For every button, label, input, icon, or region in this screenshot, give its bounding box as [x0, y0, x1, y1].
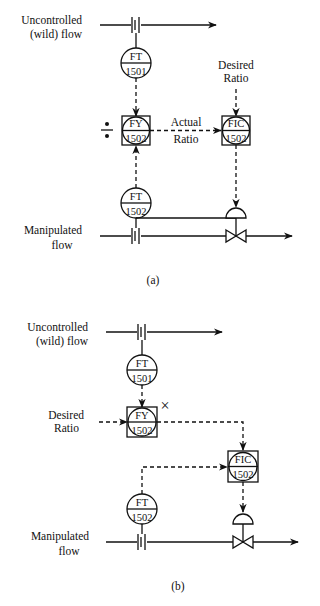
ft-1501-instrument: FT 1501	[127, 355, 157, 385]
manipulated-flow-label-line1: Manipulated	[31, 530, 89, 543]
instrument-function: FY	[129, 118, 143, 129]
figure-b: Uncontrolled (wild) flow FT 1501 × Desir…	[27, 321, 298, 593]
instrument-number: 1501	[132, 373, 153, 384]
instrument-function: FT	[136, 358, 149, 369]
caption-a: (a)	[147, 274, 160, 287]
wild-flow-label-line1: Uncontrolled	[27, 321, 88, 333]
instrument-number: 1502	[126, 206, 147, 217]
orifice-plate-icon	[137, 534, 147, 550]
remote-setpoint-signal	[157, 422, 243, 450]
fic-1502-instrument: FIC 1502	[222, 116, 250, 145]
fy-1502-instrument: FY 1502	[127, 407, 157, 437]
manipulated-flow-label-line2: flow	[58, 545, 80, 557]
instrument-number: 1502	[226, 133, 247, 144]
orifice-plate-icon	[131, 17, 141, 33]
ft-1502-instrument: FT 1502	[127, 494, 157, 524]
instrument-number: 1502	[233, 469, 254, 480]
desired-ratio-label-line1: Desired	[48, 409, 84, 421]
fic-1502-instrument: FIC 1502	[228, 451, 258, 482]
instrument-number: 1501	[126, 66, 147, 77]
ft-1501-instrument: FT 1501	[121, 48, 151, 78]
instrument-function: FT	[136, 497, 149, 508]
caption-b: (b)	[171, 580, 185, 593]
actual-ratio-label-line1: Actual	[171, 116, 202, 128]
instrument-function: FT	[130, 191, 143, 202]
wild-flow-label-line2: (wild) flow	[30, 28, 83, 41]
measurement-signal	[142, 467, 227, 494]
instrument-function: FT	[130, 51, 143, 62]
wild-flow-label-line1: Uncontrolled	[21, 14, 82, 26]
actual-ratio-label-line2: Ratio	[174, 133, 199, 145]
instrument-number: 1502	[132, 425, 153, 436]
divide-icon	[101, 122, 113, 138]
fy-1502-instrument: FY 1502	[122, 116, 150, 145]
ft-1502-instrument: FT 1502	[121, 188, 151, 218]
instrument-function: FIC	[235, 454, 251, 465]
multiply-icon: ×	[160, 397, 169, 414]
desired-ratio-label-line1: Desired	[218, 59, 254, 71]
manipulated-flow-label-line2: flow	[51, 239, 73, 251]
control-valve-icon	[233, 514, 253, 548]
control-valve-icon	[226, 208, 246, 242]
manipulated-flow-label-line1: Manipulated	[24, 224, 82, 237]
instrument-number: 1502	[126, 133, 147, 144]
desired-ratio-label-line2: Ratio	[224, 72, 249, 84]
wild-flow-label-line2: (wild) flow	[36, 335, 89, 348]
instrument-function: FIC	[228, 118, 244, 129]
figure-a: Uncontrolled (wild) flow FT 1501	[21, 14, 292, 287]
instrument-number: 1502	[132, 512, 153, 523]
instrument-function: FY	[135, 410, 149, 421]
desired-ratio-label-line2: Ratio	[54, 422, 79, 434]
orifice-plate-icon	[131, 228, 141, 244]
orifice-plate-icon	[137, 324, 147, 340]
